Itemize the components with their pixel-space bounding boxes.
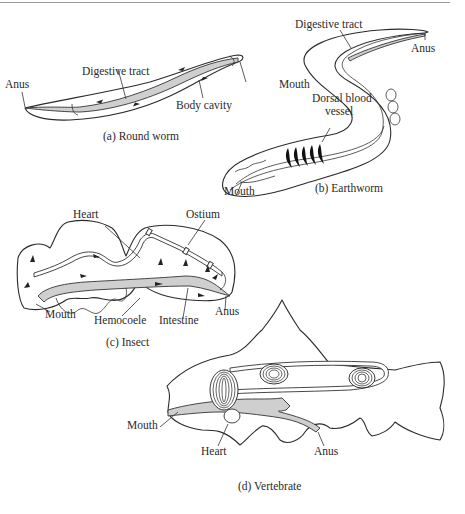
label-earthworm-mouth: Mouth: [224, 186, 255, 198]
label-earthworm-anus: Anus: [411, 43, 435, 55]
label-insect-ostium: Ostium: [186, 209, 220, 221]
label-roundworm-anus: Anus: [5, 79, 29, 91]
label-insect-intestine: Intestine: [159, 315, 199, 327]
label-earthworm-dorsal-blood-vessel-line2: vessel: [325, 106, 353, 118]
label-vertebrate-mouth: Mouth: [127, 420, 158, 432]
label-earthworm-dorsal-blood-vessel-line1: Dorsal blood: [312, 93, 372, 105]
label-insect-mouth: Mouth: [45, 309, 76, 321]
insect-drawing: [17, 220, 235, 318]
label-vertebrate-anus: Anus: [314, 446, 338, 458]
capillary-bed-gill: [210, 370, 238, 410]
label-insect-heart: Heart: [73, 209, 99, 221]
caption-earthworm: (b) Earthworm: [315, 183, 383, 195]
caption-round-worm: (a) Round worm: [103, 131, 179, 143]
caption-vertebrate: (d) Vertebrate: [238, 481, 301, 493]
label-vertebrate-heart: Heart: [201, 446, 227, 458]
label-insect-hemocoele: Hemocoele: [94, 315, 146, 327]
comparative-digestive-circulatory-diagram: [0, 0, 465, 514]
label-roundworm-digestive-tract: Digestive tract: [82, 66, 149, 78]
vertebrate-fish-drawing: [160, 300, 444, 446]
label-earthworm-digestive-tract: Digestive tract: [295, 19, 362, 31]
label-insect-anus: Anus: [215, 306, 239, 318]
capillary-bed-mid: [260, 364, 288, 384]
caption-insect: (c) Insect: [106, 337, 149, 349]
capillary-bed-tail: [349, 368, 375, 388]
label-roundworm-mouth: Mouth: [279, 79, 310, 91]
label-roundworm-body-cavity: Body cavity: [176, 100, 232, 112]
